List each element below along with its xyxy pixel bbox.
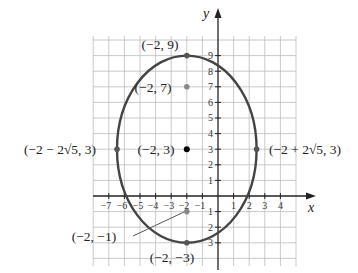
y-tick: 7	[208, 81, 213, 92]
point-upper-focus	[184, 84, 190, 90]
point-right-covertex	[254, 146, 260, 152]
y-tick: 8	[208, 66, 213, 77]
y-tick: 2	[208, 222, 213, 233]
point-lower-focus	[184, 209, 190, 215]
x-tick: 4	[278, 200, 283, 211]
y-tick: 1	[208, 206, 213, 217]
label-top-vertex: (−2, 9)	[142, 37, 179, 52]
point-bottom-vertex	[184, 240, 190, 246]
grid	[93, 36, 296, 266]
label-upper-focus: (−2, 7)	[135, 80, 172, 95]
label-bottom-vertex: (−2, −3)	[150, 250, 194, 265]
point-top-vertex	[184, 53, 190, 59]
x-tick: −7	[101, 200, 112, 211]
x-tick: −4	[148, 200, 159, 211]
point-center	[184, 146, 190, 152]
y-tick: 2	[208, 159, 213, 170]
y-axis-arrow-icon	[215, 8, 222, 18]
label-center: (−2, 3)	[138, 142, 175, 157]
label-right-covertex: (−2 + 2√5, 3)	[269, 142, 341, 157]
y-tick: 4	[208, 128, 213, 139]
y-tick: 1	[208, 175, 213, 186]
y-tick: 6	[208, 97, 213, 108]
x-axis-arrow-icon	[306, 193, 316, 200]
x-tick: −1	[195, 200, 206, 211]
x-axis-label: x	[307, 200, 315, 215]
x-tick: 2	[247, 200, 252, 211]
x-tick: 1	[231, 200, 236, 211]
x-tick: −3	[164, 200, 175, 211]
leader-line	[133, 212, 184, 236]
y-axis-label: y	[201, 6, 210, 21]
label-lower-focus: (−2, −1)	[72, 229, 116, 244]
y-tick: 3	[208, 144, 213, 155]
ellipse-graph: −7 −6 −5 −4 −3 −2 −1 1 2 3 4 9 8 7 6 5 4…	[0, 0, 358, 273]
point-left-covertex	[114, 146, 120, 152]
x-tick: 3	[262, 200, 267, 211]
label-left-covertex: (−2 − 2√5, 3)	[24, 142, 96, 157]
x-tick: −6	[117, 200, 128, 211]
y-tick: 5	[208, 112, 213, 123]
y-tick-labels: 9 8 7 6 5 4 3 2 1 1 2 3	[208, 50, 213, 248]
